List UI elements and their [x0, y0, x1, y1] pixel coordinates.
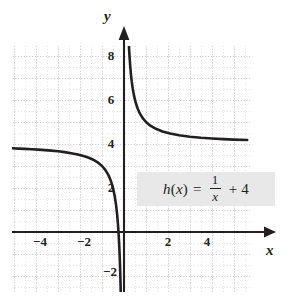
equation-numerator: 1 [212, 173, 219, 187]
y-tick-label-4: 4 [101, 136, 121, 152]
equation-plus-sign: + [229, 181, 238, 198]
x-tick-label-2: 2 [157, 234, 179, 250]
equation-constant: 4 [241, 181, 249, 198]
equation-function-name: h [163, 181, 171, 198]
equation-paren-close: ) [183, 181, 188, 198]
graph-canvas [0, 0, 290, 302]
graph-figure: h(x)=1x+4 y x −4 −2 2 4 −2 2 4 6 8 [0, 0, 290, 302]
equation-equals-sign: = [193, 181, 202, 198]
equation-denominator: x [212, 190, 218, 204]
x-tick-label-neg2: −2 [71, 234, 97, 250]
y-tick-label-neg2: −2 [97, 264, 123, 280]
y-tick-label-6: 6 [101, 92, 121, 108]
x-tick-label-neg4: −4 [27, 234, 53, 250]
equation-argument: x [176, 181, 183, 198]
equation-label: h(x)=1x+4 [137, 172, 275, 206]
y-axis-label: y [104, 8, 111, 25]
x-tick-label-4: 4 [196, 234, 218, 250]
y-tick-label-2: 2 [101, 180, 121, 196]
equation-fraction: 1x [210, 173, 221, 203]
x-axis-label: x [266, 242, 274, 259]
y-tick-label-8: 8 [101, 48, 121, 64]
